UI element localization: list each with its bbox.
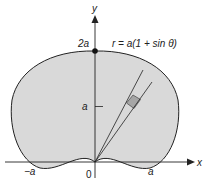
x-axis-arrow-icon xyxy=(187,159,195,166)
label-neg-a: −a xyxy=(24,166,36,177)
cardioid-diagram: y x 2a r = a(1 + sin θ) a −a 0 a xyxy=(0,0,207,190)
label-y-a: a xyxy=(82,101,88,112)
x-axis-label: x xyxy=(196,157,203,168)
equation-label: r = a(1 + sin θ) xyxy=(112,38,177,49)
point-2a xyxy=(92,48,98,54)
y-axis-arrow-icon xyxy=(92,15,99,23)
label-pos-a: a xyxy=(148,166,154,177)
label-2a: 2a xyxy=(77,38,90,49)
y-axis-label: y xyxy=(91,3,98,14)
label-origin: 0 xyxy=(86,169,92,180)
